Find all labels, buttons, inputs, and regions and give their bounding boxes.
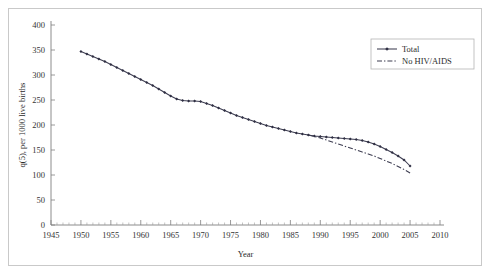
- data-point-marker: [85, 53, 88, 56]
- data-point-marker: [187, 100, 190, 103]
- data-point-marker: [223, 109, 226, 112]
- chart-figure-frame: 0501001502002503003504001945195019551960…: [8, 8, 482, 266]
- x-tick-label: 2005: [402, 230, 419, 240]
- x-axis-title: Year: [238, 249, 254, 259]
- data-point-marker: [343, 137, 346, 140]
- data-point-marker: [91, 55, 94, 58]
- data-point-marker: [229, 112, 232, 115]
- x-tick-label: 1960: [132, 230, 149, 240]
- y-tick-label: 150: [32, 145, 45, 155]
- data-point-marker: [193, 100, 196, 103]
- data-point-marker: [181, 99, 184, 102]
- legend-label-no-hiv-aids: No HIV/AIDS: [402, 56, 452, 66]
- data-point-marker: [253, 120, 256, 123]
- data-point-marker: [295, 132, 298, 135]
- x-tick-label: 1955: [102, 230, 119, 240]
- data-point-marker: [307, 134, 310, 137]
- y-tick-label: 400: [32, 20, 45, 30]
- y-tick-label: 350: [32, 45, 45, 55]
- y-tick-label: 100: [32, 170, 45, 180]
- data-point-marker: [325, 136, 328, 139]
- data-point-marker: [247, 118, 250, 121]
- x-tick-label: 1985: [282, 230, 299, 240]
- data-point-marker: [349, 138, 352, 141]
- data-point-marker: [331, 136, 334, 139]
- data-point-marker: [277, 127, 280, 130]
- data-point-marker: [355, 138, 358, 141]
- series-line-total: [81, 52, 410, 167]
- data-point-marker: [259, 122, 262, 125]
- data-point-marker: [217, 107, 220, 110]
- data-point-marker: [199, 100, 202, 103]
- x-tick-label: 1970: [192, 230, 209, 240]
- x-tick-label: 1980: [252, 230, 269, 240]
- data-point-marker: [97, 58, 100, 61]
- x-tick-label: 1975: [222, 230, 239, 240]
- x-tick-label: 1990: [312, 230, 329, 240]
- data-point-marker: [271, 126, 274, 129]
- data-point-marker: [265, 124, 268, 127]
- data-point-marker: [337, 137, 340, 140]
- data-point-marker: [79, 50, 82, 53]
- data-point-marker: [205, 102, 208, 105]
- data-point-marker: [373, 143, 376, 146]
- data-point-marker: [361, 139, 364, 142]
- data-point-marker: [283, 129, 286, 132]
- data-point-marker: [241, 116, 244, 119]
- legend-label-total: Total: [402, 44, 420, 54]
- y-axis-title: q(5), per 1000 live births: [17, 83, 27, 168]
- x-tick-label: 1945: [43, 230, 60, 240]
- data-point-marker: [301, 133, 304, 136]
- y-tick-label: 250: [32, 95, 45, 105]
- x-tick-label: 1965: [162, 230, 179, 240]
- data-point-marker: [289, 130, 292, 133]
- data-point-marker: [367, 141, 370, 144]
- x-tick-label: 2010: [432, 230, 449, 240]
- y-tick-label: 50: [37, 195, 46, 205]
- x-tick-label: 1950: [72, 230, 89, 240]
- y-tick-label: 0: [41, 220, 45, 230]
- y-tick-label: 300: [32, 70, 45, 80]
- data-point-marker: [211, 104, 214, 107]
- data-point-marker: [235, 114, 238, 117]
- x-tick-label: 2000: [372, 230, 389, 240]
- x-tick-label: 1995: [342, 230, 359, 240]
- line-chart: 0501001502002503003504001945195019551960…: [9, 9, 483, 267]
- y-tick-label: 200: [32, 120, 45, 130]
